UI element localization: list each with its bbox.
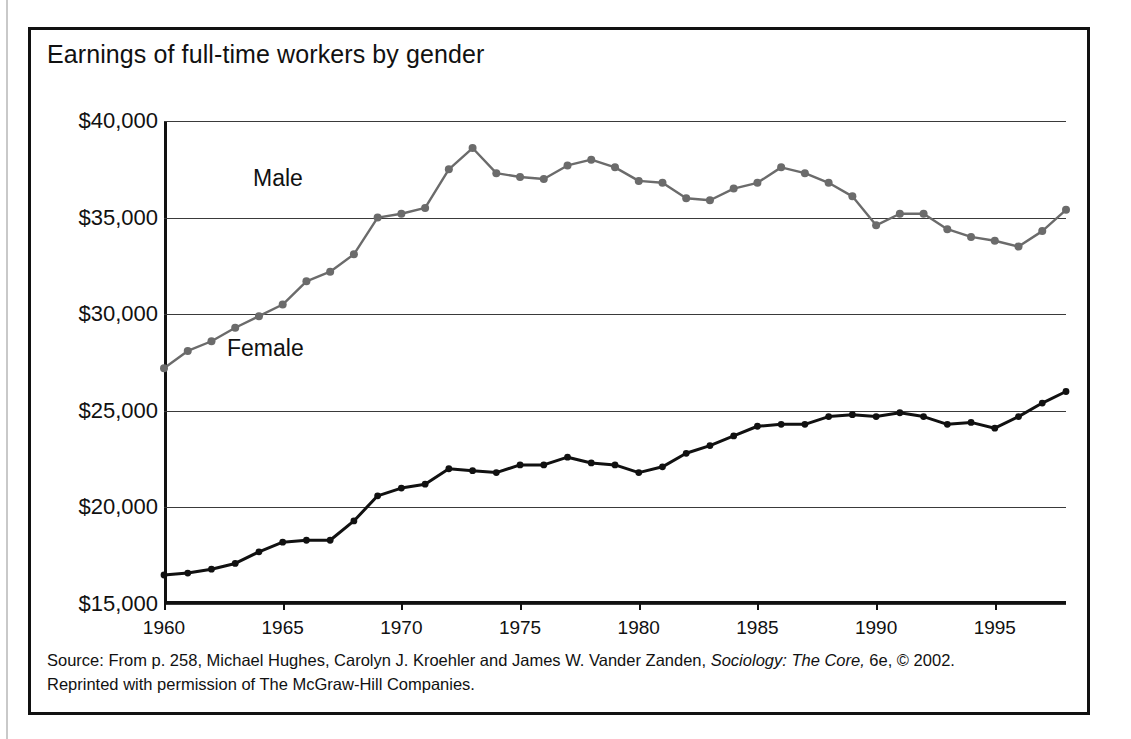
data-point-marker xyxy=(778,421,785,428)
data-point-marker xyxy=(754,423,761,430)
gridline xyxy=(164,604,1066,605)
data-point-marker xyxy=(849,411,856,418)
data-point-marker xyxy=(730,433,737,440)
data-point-marker xyxy=(374,214,382,222)
plot-area: $40,000$35,000$30,000$25,000$20,000$15,0… xyxy=(164,121,1066,604)
data-point-marker xyxy=(422,481,429,488)
data-point-marker xyxy=(232,560,239,567)
data-point-marker xyxy=(825,413,832,420)
data-point-marker xyxy=(873,413,880,420)
source-note: Source: From p. 258, Michael Hughes, Car… xyxy=(47,649,1071,696)
data-point-marker xyxy=(302,277,310,285)
data-point-marker xyxy=(1063,388,1070,395)
data-point-marker xyxy=(777,163,785,171)
data-point-marker xyxy=(611,163,619,171)
data-point-marker xyxy=(659,463,666,470)
data-point-marker xyxy=(943,225,951,233)
x-tick-label: 1995 xyxy=(974,617,1016,639)
data-point-marker xyxy=(587,156,595,164)
chart-title: Earnings of full-time workers by gender xyxy=(47,40,484,69)
data-point-marker xyxy=(896,210,904,218)
series-female xyxy=(161,388,1070,578)
data-point-marker xyxy=(303,537,310,544)
x-tick-label: 1980 xyxy=(618,617,660,639)
data-point-marker xyxy=(208,566,215,573)
data-point-marker xyxy=(1015,243,1023,251)
data-point-marker xyxy=(682,194,690,202)
data-point-marker xyxy=(683,450,690,457)
data-point-marker xyxy=(1015,413,1022,420)
y-tick-label: $30,000 xyxy=(78,301,158,327)
data-point-marker xyxy=(706,196,714,204)
data-point-marker xyxy=(350,250,358,258)
data-point-marker xyxy=(231,324,239,332)
x-tick-label: 1970 xyxy=(380,617,422,639)
data-point-marker xyxy=(207,337,215,345)
data-point-marker xyxy=(968,419,975,426)
data-point-marker xyxy=(564,161,572,169)
series-lines xyxy=(164,121,1066,604)
data-point-marker xyxy=(825,179,833,187)
data-point-marker xyxy=(801,169,809,177)
page-edge-line xyxy=(6,0,8,739)
data-point-marker xyxy=(161,572,168,579)
data-point-marker xyxy=(540,462,547,469)
data-point-marker xyxy=(397,210,405,218)
data-point-marker xyxy=(279,539,286,546)
data-point-marker xyxy=(279,301,287,309)
data-point-marker xyxy=(1038,227,1046,235)
data-point-marker xyxy=(256,548,263,555)
data-point-marker xyxy=(184,570,191,577)
x-tick-label: 1990 xyxy=(855,617,897,639)
data-point-marker xyxy=(1039,400,1046,407)
source-title-italic: Sociology: The Core, xyxy=(711,651,865,669)
data-point-marker xyxy=(944,421,951,428)
data-point-marker xyxy=(445,465,452,472)
data-point-marker xyxy=(896,409,903,416)
y-tick-label: $40,000 xyxy=(78,108,158,134)
series-label-male: Male xyxy=(253,165,303,192)
data-point-marker xyxy=(707,442,714,449)
y-tick-label: $20,000 xyxy=(78,494,158,520)
data-point-marker xyxy=(1062,206,1070,214)
data-point-marker xyxy=(492,169,500,177)
x-tick-label: 1985 xyxy=(736,617,778,639)
x-tick-label: 1965 xyxy=(262,617,304,639)
data-point-marker xyxy=(753,179,761,187)
data-point-marker xyxy=(516,173,524,181)
data-point-marker xyxy=(991,425,998,432)
data-point-marker xyxy=(588,460,595,467)
data-point-marker xyxy=(469,467,476,474)
data-point-marker xyxy=(350,518,357,525)
data-point-marker xyxy=(326,268,334,276)
data-point-marker xyxy=(612,462,619,469)
data-point-marker xyxy=(658,179,666,187)
data-point-marker xyxy=(848,192,856,200)
data-point-marker xyxy=(991,237,999,245)
figure-container: Earnings of full-time workers by gender … xyxy=(28,27,1090,715)
source-text-a: Source: From p. 258, Michael Hughes, Car… xyxy=(47,651,711,669)
data-point-marker xyxy=(801,421,808,428)
data-point-marker xyxy=(635,469,642,476)
data-point-marker xyxy=(730,185,738,193)
series-polyline xyxy=(164,391,1066,575)
source-text-b: 6e, © 2002. xyxy=(865,651,955,669)
data-point-marker xyxy=(920,210,928,218)
data-point-marker xyxy=(564,454,571,461)
data-point-marker xyxy=(421,204,429,212)
source-line-2: Reprinted with permission of The McGraw-… xyxy=(47,673,1071,696)
data-point-marker xyxy=(184,347,192,355)
y-tick-label: $25,000 xyxy=(78,398,158,424)
data-point-marker xyxy=(635,177,643,185)
data-point-marker xyxy=(374,492,381,499)
data-point-marker xyxy=(327,537,334,544)
source-line-1: Source: From p. 258, Michael Hughes, Car… xyxy=(47,649,1071,672)
data-point-marker xyxy=(469,144,477,152)
data-point-marker xyxy=(398,485,405,492)
data-point-marker xyxy=(255,312,263,320)
data-point-marker xyxy=(160,364,168,372)
data-point-marker xyxy=(872,221,880,229)
y-tick-label: $35,000 xyxy=(78,205,158,231)
data-point-marker xyxy=(967,233,975,241)
data-point-marker xyxy=(920,413,927,420)
